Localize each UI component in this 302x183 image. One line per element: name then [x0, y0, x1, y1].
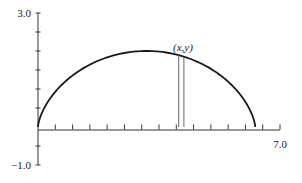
- x-axis-ticks: [55, 125, 280, 130]
- y-top-label: 3.0: [17, 7, 31, 19]
- rectangle-strip: [179, 55, 184, 127]
- y-bottom-label: −1.0: [11, 159, 31, 171]
- point-label: (x,y): [173, 41, 193, 54]
- axes: [38, 13, 280, 165]
- cycloid-plot: 3.0 −1.0 7.0 (x,y): [0, 0, 302, 183]
- cycloid-curve: [38, 51, 255, 127]
- x-right-label: 7.0: [273, 138, 287, 150]
